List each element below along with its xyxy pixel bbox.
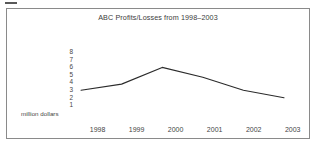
y-tick-label: 1 [69, 101, 73, 109]
y-axis-unit-label: million dollars [21, 110, 58, 118]
x-tick-label: 2003 [285, 125, 301, 135]
x-tick-label: 1998 [90, 125, 106, 135]
y-tick-label: 4 [69, 78, 73, 86]
line-series-svg [7, 9, 311, 140]
line-series-path [81, 67, 284, 97]
chart-frame: ABC Profits/Losses from 1998–2003 8 7 6 … [6, 8, 310, 139]
y-axis-tick-labels: 8 7 6 5 4 3 2 1 [59, 48, 73, 109]
capture-artifact-mark [5, 2, 17, 4]
y-tick-label: 8 [69, 48, 73, 56]
x-tick-label: 1999 [129, 125, 145, 135]
x-tick-label: 2002 [246, 125, 262, 135]
y-tick-label: 7 [69, 56, 73, 64]
x-axis-tick-labels: 1998 1999 2000 2001 2002 2003 [69, 125, 307, 137]
y-tick-label: 3 [69, 86, 73, 94]
y-tick-label: 5 [69, 71, 73, 79]
plot-area [7, 9, 311, 140]
x-tick-label: 2000 [168, 125, 184, 135]
chart-screenshot: ABC Profits/Losses from 1998–2003 8 7 6 … [0, 0, 317, 147]
x-tick-label: 2001 [207, 125, 223, 135]
y-tick-label: 6 [69, 63, 73, 71]
y-tick-label: 2 [69, 94, 73, 102]
